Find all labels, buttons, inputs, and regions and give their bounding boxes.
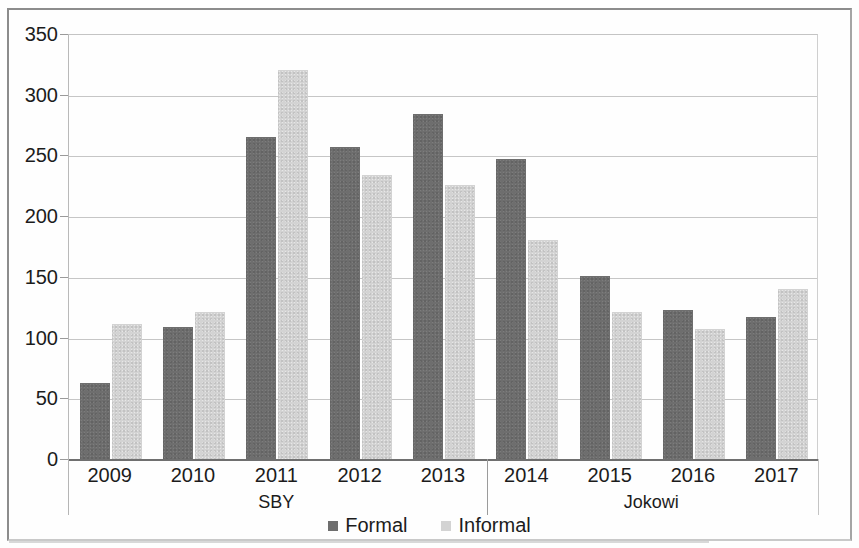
y-axis-tick-label: 300 [12, 83, 58, 106]
x-axis-tick-label-2009: 2009 [68, 464, 151, 487]
group-axis-right-tick [818, 459, 819, 515]
bar-formal-2015 [580, 276, 610, 459]
bar-formal-2017 [746, 317, 776, 459]
bar-formal-2012 [330, 147, 360, 459]
group-label-sby: SBY [68, 492, 485, 513]
group-separator [487, 459, 488, 515]
bar-formal-2014 [496, 159, 526, 459]
bar-informal-2011 [278, 70, 308, 459]
plot-area [68, 34, 818, 459]
y-axis-tick-mark [60, 34, 68, 35]
bar-informal-2014 [528, 240, 558, 459]
legend-swatch-icon [441, 521, 451, 531]
scan-artifact-line [9, 541, 709, 543]
y-axis-tick-mark [60, 216, 68, 217]
bar-informal-2012 [362, 175, 392, 459]
y-axis-tick-label: 350 [12, 23, 58, 46]
gridline [69, 278, 817, 279]
group-axis-left-tick [68, 459, 69, 515]
y-axis-tick-label: 100 [12, 326, 58, 349]
bar-informal-2010 [195, 312, 225, 459]
x-axis-tick-label-2010: 2010 [151, 464, 234, 487]
y-axis-tick-mark [60, 338, 68, 339]
gridline [69, 96, 817, 97]
x-axis-line [68, 459, 819, 461]
x-axis-tick-label-2015: 2015 [568, 464, 651, 487]
bar-informal-2013 [445, 185, 475, 459]
y-axis-tick-label: 0 [12, 448, 58, 471]
chart-figure: 350300250200150100500 200920102011201220… [0, 0, 859, 548]
bar-informal-2009 [112, 324, 142, 459]
x-axis-tick-label-2012: 2012 [318, 464, 401, 487]
group-label-jokowi: Jokowi [485, 492, 818, 513]
gridline [69, 217, 817, 218]
y-axis-tick-label: 200 [12, 205, 58, 228]
y-axis-tick-labels: 350300250200150100500 [0, 0, 58, 548]
y-axis-tick-mark [60, 277, 68, 278]
y-axis-tick-mark [60, 155, 68, 156]
legend-label: Informal [458, 514, 530, 537]
legend-entry-informal[interactable]: Informal [441, 514, 530, 537]
legend-label: Formal [345, 514, 407, 537]
y-axis-tick-label: 150 [12, 265, 58, 288]
legend-swatch-icon [328, 521, 338, 531]
x-axis-tick-label-2013: 2013 [401, 464, 484, 487]
bar-formal-2013 [413, 114, 443, 459]
bar-informal-2017 [778, 289, 808, 459]
y-axis-tick-mark [60, 398, 68, 399]
bar-informal-2015 [612, 312, 642, 459]
bar-informal-2016 [695, 329, 725, 459]
bar-formal-2016 [663, 310, 693, 459]
chart-legend: FormalInformal [0, 514, 859, 537]
bar-formal-2009 [80, 383, 110, 460]
gridline [69, 156, 817, 157]
y-axis-tick-label: 250 [12, 144, 58, 167]
x-axis-tick-label-2014: 2014 [485, 464, 568, 487]
bar-formal-2010 [163, 327, 193, 459]
y-axis-tick-mark [60, 95, 68, 96]
x-axis-tick-label-2011: 2011 [235, 464, 318, 487]
bar-formal-2011 [246, 137, 276, 459]
y-axis-tick-mark [60, 459, 68, 460]
y-axis-tick-label: 50 [12, 387, 58, 410]
x-axis-tick-label-2016: 2016 [651, 464, 734, 487]
x-axis-tick-label-2017: 2017 [735, 464, 818, 487]
legend-entry-formal[interactable]: Formal [328, 514, 407, 537]
